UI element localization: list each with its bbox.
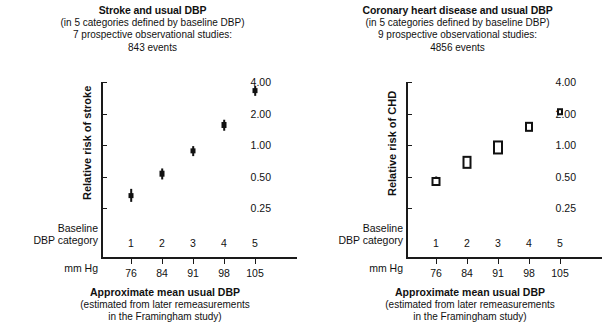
chd-y-tick <box>407 177 412 178</box>
stroke-title: Stroke and usual DBP <box>0 4 305 17</box>
stroke-plot-area: 0.250.501.002.004.001762843914985105 <box>101 78 281 259</box>
stroke-baseline-line-2: DBP category <box>6 234 98 246</box>
stroke-x-category-label: 2 <box>159 237 165 249</box>
chd-x-category-label: 5 <box>557 237 563 249</box>
stroke-x-value-label: 105 <box>246 267 264 279</box>
chd-title-block: Coronary heart disease and usual DBP (in… <box>305 4 610 54</box>
chd-x-category-label: 1 <box>433 237 439 249</box>
chd-x-value-label: 84 <box>461 267 473 279</box>
stroke-y-tick-label: 1.00 <box>251 139 271 151</box>
stroke-y-tick <box>102 145 107 146</box>
chd-y-tick <box>407 145 412 146</box>
stroke-x-axis-sub-1: (estimated from later remeasurements <box>40 299 290 312</box>
chd-x-tick <box>436 259 437 264</box>
chd-baseline-category-label: Baseline DBP category <box>311 222 403 246</box>
chd-x-category-label: 3 <box>495 237 501 249</box>
stroke-x-category-label: 1 <box>128 237 134 249</box>
chd-point-marker <box>493 140 503 154</box>
stroke-title-block: Stroke and usual DBP (in 5 categories de… <box>0 4 305 54</box>
chd-x-category-label: 4 <box>526 237 532 249</box>
chd-point-marker <box>557 108 563 115</box>
chd-x-category-label: 2 <box>464 237 470 249</box>
stroke-point-marker <box>191 148 196 154</box>
panel-stroke: Stroke and usual DBP (in 5 categories de… <box>0 0 305 329</box>
stroke-x-value-label: 76 <box>125 267 137 279</box>
chd-x-value-label: 91 <box>492 267 504 279</box>
stroke-point-marker <box>222 122 227 128</box>
stroke-y-tick-label: 0.25 <box>251 202 271 214</box>
stroke-x-axis-title: Approximate mean usual DBP <box>40 286 290 299</box>
chd-data-point <box>429 171 443 192</box>
stroke-data-point <box>217 114 231 137</box>
chd-mmhg-label: mm Hg <box>311 262 403 274</box>
stroke-y-tick <box>102 208 107 209</box>
chd-x-value-label: 105 <box>551 267 569 279</box>
chd-y-tick-label: 4.00 <box>556 76 576 88</box>
stroke-x-category-label: 3 <box>190 237 196 249</box>
chd-y-axis-line <box>406 82 408 259</box>
stroke-x-tick <box>255 259 256 264</box>
chd-data-point <box>460 151 474 174</box>
stroke-x-axis-title-block: Approximate mean usual DBP (estimated fr… <box>40 286 290 324</box>
stroke-baseline-category-label: Baseline DBP category <box>6 222 98 246</box>
chd-data-point <box>553 103 567 120</box>
chd-subtitle-line-1: (in 5 categories defined by baseline DBP… <box>305 17 610 30</box>
stroke-x-category-label: 5 <box>252 237 258 249</box>
chd-y-tick-label: 1.00 <box>556 139 576 151</box>
stroke-x-value-label: 84 <box>156 267 168 279</box>
stroke-y-tick <box>102 82 107 83</box>
stroke-x-category-label: 4 <box>221 237 227 249</box>
stroke-mmhg-label: mm Hg <box>6 262 98 274</box>
stroke-data-point <box>155 162 169 185</box>
chd-y-tick <box>407 82 412 83</box>
chd-baseline-line-1: Baseline <box>311 222 403 234</box>
chd-x-axis-sub-2: in the Framingham study) <box>345 311 595 324</box>
chd-x-axis-sub-1: (estimated from later remeasurements <box>345 299 595 312</box>
chd-y-tick-label: 0.50 <box>556 171 576 183</box>
chd-x-tick <box>467 259 468 264</box>
chd-x-axis-title: Approximate mean usual DBP <box>345 286 595 299</box>
stroke-data-point <box>248 80 262 102</box>
stroke-baseline-line-1: Baseline <box>6 222 98 234</box>
chd-y-tick <box>407 114 412 115</box>
chd-y-tick-label: 0.25 <box>556 202 576 214</box>
stroke-x-tick <box>131 259 132 264</box>
stroke-data-point <box>124 183 138 207</box>
chd-x-tick <box>560 259 561 264</box>
chd-title: Coronary heart disease and usual DBP <box>305 4 610 17</box>
stroke-y-tick <box>102 114 107 115</box>
chd-point-marker <box>432 177 441 186</box>
stroke-subtitle-line-1: (in 5 categories defined by baseline DBP… <box>0 17 305 30</box>
stroke-data-point <box>186 140 200 162</box>
stroke-point-marker <box>160 171 165 177</box>
stroke-x-value-label: 98 <box>218 267 230 279</box>
chd-baseline-line-2: DBP category <box>311 234 403 246</box>
panel-chd: Coronary heart disease and usual DBP (in… <box>305 0 610 329</box>
chd-point-marker <box>463 156 472 169</box>
chd-data-point <box>491 137 505 158</box>
stroke-x-tick <box>224 259 225 264</box>
stroke-y-tick <box>102 177 107 178</box>
stroke-x-value-label: 91 <box>187 267 199 279</box>
stroke-x-tick <box>162 259 163 264</box>
chd-subtitle-line-3: 4856 events <box>305 42 610 55</box>
stroke-subtitle-line-3: 843 events <box>0 42 305 55</box>
stroke-point-marker <box>129 193 134 199</box>
stroke-y-tick-label: 0.50 <box>251 171 271 183</box>
stroke-x-axis-sub-2: in the Framingham study) <box>40 311 290 324</box>
chd-data-point <box>522 117 536 135</box>
stroke-x-tick <box>193 259 194 264</box>
chd-x-value-label: 98 <box>523 267 535 279</box>
chd-plot-area: 0.250.501.002.004.001762843914985105 <box>406 78 586 259</box>
stroke-point-marker <box>253 88 258 94</box>
chd-point-marker <box>525 122 533 132</box>
stroke-y-tick-label: 2.00 <box>251 108 271 120</box>
stroke-y-axis-line <box>101 82 103 259</box>
chd-x-value-label: 76 <box>430 267 442 279</box>
chd-subtitle-line-2: 9 prospective observational studies: <box>305 29 610 42</box>
stroke-subtitle-line-2: 7 prospective observational studies: <box>0 29 305 42</box>
chd-y-tick <box>407 208 412 209</box>
chd-x-tick <box>529 259 530 264</box>
chd-x-axis-title-block: Approximate mean usual DBP (estimated fr… <box>345 286 595 324</box>
chd-x-tick <box>498 259 499 264</box>
